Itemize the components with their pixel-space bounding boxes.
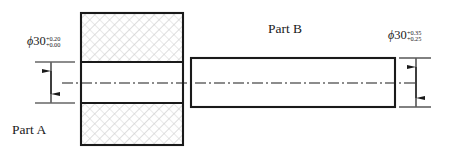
part-a-lower-tolerance: +0.00 xyxy=(46,42,60,48)
part-a-dimension-label: ϕ30+0.20+0.00 xyxy=(27,35,60,49)
part-b-tolerance-stack: +0.35+0.25 xyxy=(407,30,421,43)
part-a-label: Part A xyxy=(12,123,46,137)
part-b-nominal-value: 30 xyxy=(394,28,407,42)
part-a-tolerance-stack: +0.20+0.00 xyxy=(46,36,60,49)
part-b-label: Part B xyxy=(268,22,302,36)
part-a-nominal-value: 30 xyxy=(33,34,46,48)
part-a-body xyxy=(81,13,183,145)
technical-drawing-canvas xyxy=(0,0,450,161)
part-a-lower-hatch-cross xyxy=(81,103,183,145)
part-b-dimension-label: ϕ30+0.35+0.25 xyxy=(388,29,421,43)
part-b-lower-tolerance: +0.25 xyxy=(407,36,421,42)
part-a-upper-hatch-cross xyxy=(81,13,183,62)
